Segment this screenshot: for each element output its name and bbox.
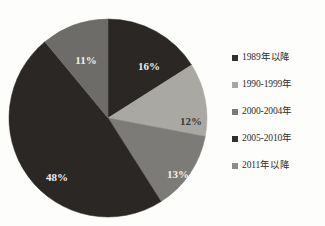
pie-slice-data-label: 13% [167,168,189,180]
pie-slice-data-label: 12% [180,115,202,127]
pie-chart-figure: 16%12%13%48%11% 1989年以降 1990-1999年 2000-… [0,0,325,226]
legend-color-swatch-icon [232,136,238,142]
legend-item[interactable]: 2000-2004年 [232,98,324,125]
legend-item[interactable]: 2011年以降 [232,152,324,179]
chart-legend: 1989年以降 1990-1999年 2000-2004年 2005-2010年… [232,44,324,179]
pie-chart-plot-area: 16%12%13%48%11% [6,16,210,220]
legend-item[interactable]: 1990-1999年 [232,71,324,98]
legend-item[interactable]: 1989年以降 [232,44,324,71]
legend-color-swatch-icon [232,163,238,169]
pie-slice-group [9,19,207,217]
legend-item-label: 2011年以降 [242,161,290,171]
legend-color-swatch-icon [232,82,238,88]
pie-chart-svg: 16%12%13%48%11% [6,16,210,220]
legend-item-label: 1989年以降 [242,53,290,63]
pie-slice-data-label: 11% [75,54,96,66]
legend-item-label: 2005-2010年 [242,134,292,144]
legend-item-label: 2000-2004年 [242,107,292,117]
legend-color-swatch-icon [232,109,238,115]
legend-item[interactable]: 2005-2010年 [232,125,324,152]
legend-item-label: 1990-1999年 [242,80,292,90]
pie-slice-data-label: 48% [46,171,68,183]
legend-color-swatch-icon [232,55,238,61]
pie-slice-data-label: 16% [138,60,160,72]
